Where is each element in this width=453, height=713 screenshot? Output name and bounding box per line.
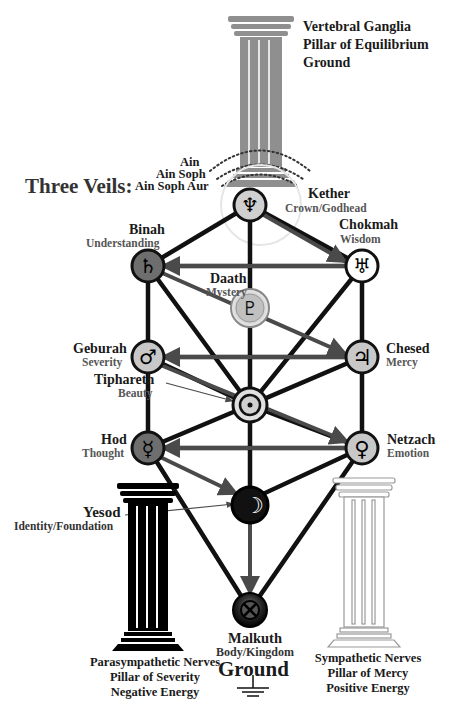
right-pillar-line-3: Positive Energy [303,681,433,696]
svg-text:♅: ♅ [353,254,371,278]
hod-label: Hod [101,433,127,447]
top-pillar-caption: Vertebral Ganglia Pillar of Equilibrium … [303,18,429,72]
left-pillar-line-1: Parasympathetic Nerves [80,655,230,670]
right-pillar-caption: Sympathetic Nerves Pillar of Mercy Posit… [303,651,433,696]
chesed-label: Chesed [386,342,430,356]
top-pillar-line-2: Pillar of Equilibrium [303,36,429,54]
svg-text:♂: ♂ [139,345,157,369]
top-pillar-graphic [224,16,298,187]
chokmah-label: Chokmah [339,218,398,232]
yesod-meaning: Identity/Foundation [14,521,113,533]
binah-label: Binah [129,223,165,237]
right-pillar-graphic [328,478,400,647]
daath-label: Daath [210,272,247,286]
netzach-node: ♀ [346,432,378,464]
netzach-label: Netzach [387,433,435,447]
geburah-label: Geburah [73,342,127,356]
svg-text:♃: ♃ [352,345,372,370]
right-pillar-line-2: Pillar of Mercy [303,666,433,681]
top-pillar-line-1: Vertebral Ganglia [303,18,429,36]
tiphareth-meaning: Beauty [118,388,153,400]
kether-label: Kether [308,187,350,201]
svg-text:♄: ♄ [139,254,157,278]
left-pillar-line-2: Pillar of Severity [80,670,230,685]
netzach-meaning: Emotion [387,448,429,460]
yesod-node: ☽ [232,487,268,523]
kether-node: ♆ [234,189,266,221]
right-pillar-line-1: Sympathetic Nerves [303,651,433,666]
binah-meaning: Understanding [86,238,160,250]
binah-node: ♄ [132,250,164,282]
left-pillar-caption: Parasympathetic Nerves Pillar of Severit… [80,655,230,700]
veil-ain-soph-aur: Ain Soph Aur [135,180,209,193]
chokmah-meaning: Wisdom [340,234,381,246]
malkuth-node [233,593,267,627]
kether-meaning: Crown/Godhead [285,203,367,215]
geburah-node: ♂ [132,341,164,373]
chokmah-node: ♅ [346,250,378,282]
svg-text:♇: ♇ [241,297,258,319]
tiphareth-label: Tiphareth [94,373,154,387]
svg-text:☽: ☽ [244,493,264,518]
left-pillar-graphic [112,483,184,651]
tiphareth-node [233,388,267,422]
top-pillar-line-3: Ground [303,54,429,72]
chesed-meaning: Mercy [386,357,418,369]
yesod-label: Yesod [83,505,121,520]
hod-node: ☿ [132,432,164,464]
svg-text:♀: ♀ [354,437,369,461]
svg-text:♆: ♆ [241,193,259,217]
daath-meaning: Mystery [206,287,247,299]
left-pillar-line-3: Negative Energy [80,685,230,700]
svg-text:☿: ☿ [142,437,155,461]
three-veils-label: Three Veils: [25,176,133,197]
malkuth-label: Malkuth [228,631,282,646]
chesed-node: ♃ [346,341,378,373]
geburah-meaning: Severity [82,357,122,369]
hod-meaning: Thought [82,448,124,460]
